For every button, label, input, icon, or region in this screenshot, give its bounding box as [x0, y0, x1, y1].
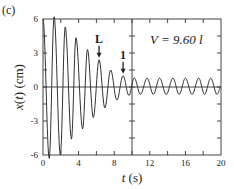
y-tick-label: 3: [34, 48, 39, 58]
x-tick-label: 20: [217, 158, 227, 168]
annotation-label-L: L: [95, 32, 103, 46]
x-axis-title: t (s): [122, 170, 143, 185]
x-tick-label: 12: [145, 158, 154, 168]
velocity-annotation: V = 9.60 l: [150, 32, 203, 47]
y-tick-label: 0: [34, 82, 39, 92]
y-tick-label: 6: [34, 14, 39, 24]
x-tick-label: 8: [112, 158, 117, 168]
y-tick-label: -3: [31, 116, 39, 126]
arrow-down-icon: [121, 69, 126, 74]
y-tick-label: -6: [31, 150, 39, 160]
y-axis-title: x(t) (cm): [11, 64, 26, 111]
x-tick-label: 0: [41, 158, 46, 168]
annotation-label-1: 1: [120, 48, 126, 62]
arrow-down-icon: [97, 53, 102, 58]
x-tick-label: 16: [181, 158, 191, 168]
damped-oscillation-chart: (c) 048121620-6-3036 L1 x(t) (cm) t (s) …: [0, 0, 234, 189]
panel-label: (c): [2, 3, 15, 17]
x-tick-label: 4: [76, 158, 81, 168]
annotations: L1: [95, 32, 126, 74]
